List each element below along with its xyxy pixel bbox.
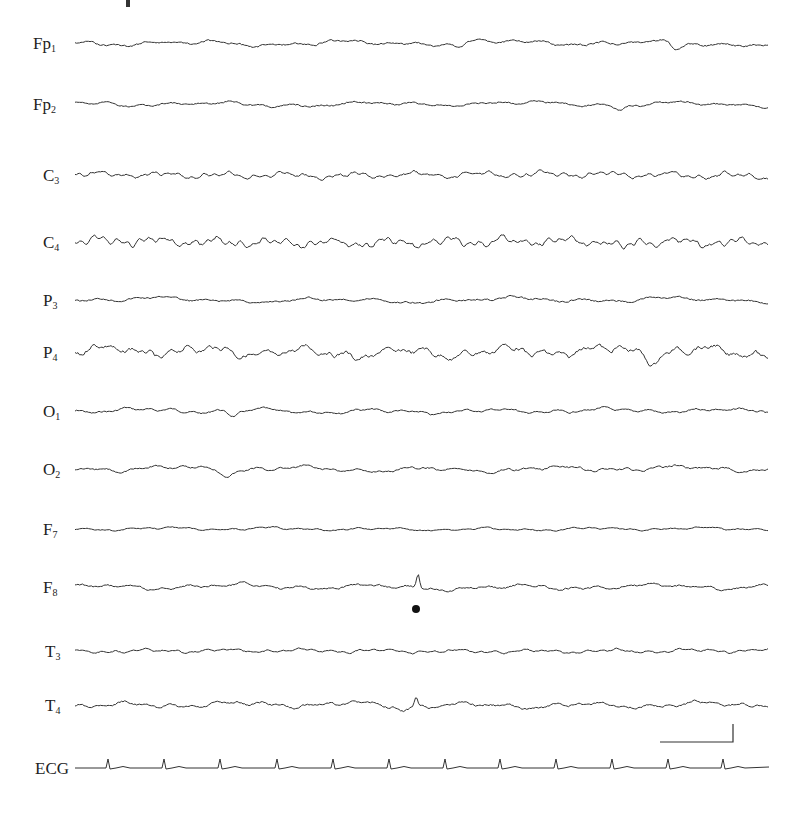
eeg-traces <box>75 39 768 712</box>
trace-fp1 <box>75 39 768 50</box>
trace-o2 <box>75 465 768 478</box>
label-p4: P4 <box>43 344 57 363</box>
eeg-chart <box>0 0 806 816</box>
trace-f7 <box>75 527 768 532</box>
label-t3: T3 <box>45 643 60 662</box>
label-f8: F8 <box>43 579 57 598</box>
trace-c3 <box>75 170 768 181</box>
label-c3: C3 <box>43 167 59 186</box>
trace-t3 <box>75 648 768 654</box>
trace-p3 <box>75 295 768 304</box>
label-fp1: Fp1 <box>33 35 56 54</box>
label-o2: O2 <box>43 461 60 480</box>
trace-f8 <box>75 575 768 592</box>
label-f7: F7 <box>43 521 57 540</box>
calibration-scale-bar <box>660 724 733 742</box>
trace-c4 <box>75 235 768 249</box>
trace-t4 <box>75 698 768 712</box>
label-c4: C4 <box>43 234 59 253</box>
trace-fp2 <box>75 101 768 111</box>
spike-marker-dot <box>412 605 420 613</box>
label-fp2: Fp2 <box>33 96 56 115</box>
label-ecg: ECG <box>35 760 69 777</box>
trace-o1 <box>75 407 768 417</box>
label-t4: T4 <box>45 697 60 716</box>
ecg-trace <box>75 759 769 769</box>
trace-p4 <box>75 344 768 366</box>
label-p3: P3 <box>43 292 57 311</box>
label-o1: O1 <box>43 403 60 422</box>
